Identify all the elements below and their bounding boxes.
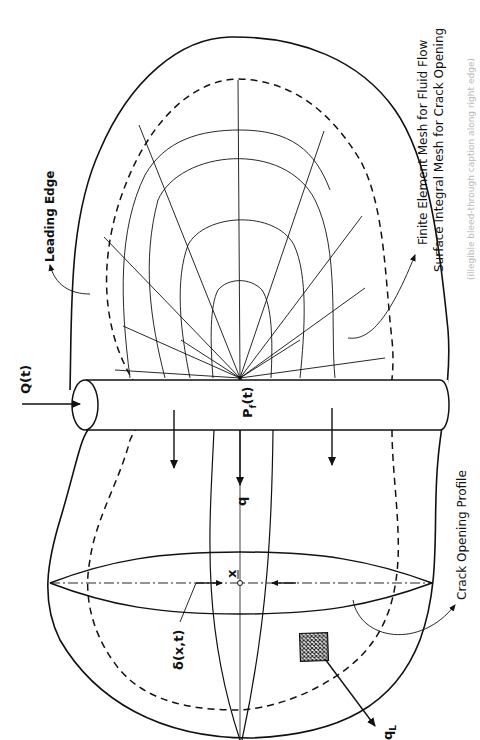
opening-function-label: δ(x,t) <box>171 630 186 670</box>
position-point <box>238 581 243 586</box>
leakoff-element <box>300 633 329 662</box>
wellbore <box>72 380 449 430</box>
mesh-note-line2: Surface Integral Mesh for Crack Opening <box>432 28 446 272</box>
hydraulic-fracture-diagram: Q(t) Pf(t) q x δ(x,t) qL Leading Edge Fi… <box>0 0 480 740</box>
leakoff-arrow <box>325 659 375 726</box>
wellhead-opening <box>72 380 98 430</box>
injection-rate-label: Q(t) <box>18 365 33 394</box>
crack-opening-profile-label: Crack Opening Profile <box>455 470 469 600</box>
radial-mesh-lines <box>104 80 385 378</box>
crack-opening-profile-leader <box>353 600 455 635</box>
mesh-note-line1: Finite Element Mesh for Fluid Flow <box>416 39 430 245</box>
leakoff-label: qL <box>380 725 398 740</box>
wellbore-point <box>238 376 242 380</box>
mesh-note-leader <box>348 255 415 338</box>
leading-edge-label: Leading Edge <box>43 171 57 262</box>
opening-function-leader <box>180 583 196 622</box>
leading-edge-leader <box>50 265 90 294</box>
concentric-mesh-contours <box>123 130 335 378</box>
position-vector-label: x <box>224 569 239 578</box>
faint-caption: (illegible bleed-through caption along r… <box>466 58 476 280</box>
svg-text:qL: qL <box>380 725 398 740</box>
flux-label: q <box>234 497 249 506</box>
